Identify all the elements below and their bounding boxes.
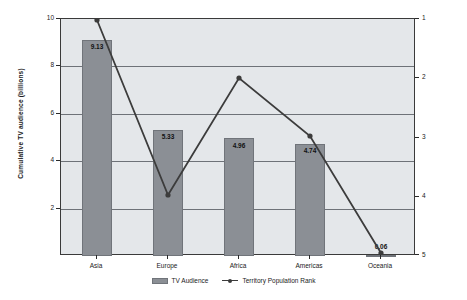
bar-europe <box>153 130 183 256</box>
y-left-tick-4: 4 <box>30 156 54 163</box>
y-left-tickmark-2 <box>56 208 60 209</box>
y-left-tickmark-10 <box>56 18 60 19</box>
y-left-tick-10: 10 <box>30 14 54 21</box>
bar-value-europe: 5.33 <box>148 133 188 140</box>
x-tickmark-americas <box>309 255 310 259</box>
bar-value-americas: 4.74 <box>290 147 330 154</box>
chart-legend: TV Audience Territory Population Rank <box>0 277 467 284</box>
line-point-africa <box>236 75 241 80</box>
bar-africa <box>224 138 254 256</box>
plot-area: 9.13 5.33 4.96 4.74 0.06 <box>60 18 415 255</box>
x-tickmark-oceania <box>380 255 381 259</box>
line-point-oceania <box>378 250 383 254</box>
y-left-tickmark-8 <box>56 65 60 66</box>
y-right-tick-3: 3 <box>422 133 446 140</box>
y-right-tick-4: 4 <box>422 192 446 199</box>
y-left-tick-6: 6 <box>30 109 54 116</box>
y-left-tick-8: 8 <box>30 61 54 68</box>
x-tickmark-africa <box>238 255 239 259</box>
y-right-tickmark-2 <box>415 77 419 78</box>
bar-value-africa: 4.96 <box>219 142 259 149</box>
bar-oceania <box>366 255 396 257</box>
legend-item-tv-audience: TV Audience <box>152 277 209 284</box>
y-right-tickmark-3 <box>415 137 419 138</box>
y-left-tickmark-6 <box>56 113 60 114</box>
bar-asia <box>82 40 112 256</box>
x-label-oceania: Oceania <box>350 262 410 269</box>
bar-value-oceania: 0.06 <box>361 243 401 250</box>
y-right-tickmark-5 <box>415 254 419 255</box>
line-point-americas <box>307 133 312 138</box>
legend-line-marker-icon <box>222 278 238 284</box>
x-tickmark-asia <box>96 255 97 259</box>
y-right-tickmark-4 <box>415 196 419 197</box>
y-left-tickmark-4 <box>56 160 60 161</box>
x-label-europe: Europe <box>137 262 197 269</box>
bar-value-asia: 9.13 <box>77 43 117 50</box>
y-right-tickmark-1 <box>415 18 419 19</box>
bar-americas <box>295 144 325 256</box>
x-label-africa: Africa <box>208 262 268 269</box>
x-label-americas: Americas <box>279 262 339 269</box>
x-label-asia: Asia <box>66 262 126 269</box>
legend-label-territory-population-rank: Territory Population Rank <box>242 277 315 284</box>
x-tickmark-europe <box>167 255 168 259</box>
y-right-tick-5: 5 <box>422 251 446 258</box>
line-point-asia <box>94 19 99 23</box>
gridline-6 <box>61 114 414 115</box>
legend-bar-swatch-icon <box>152 278 168 284</box>
y-right-tick-2: 2 <box>422 73 446 80</box>
y-axis-left-title: Cumulative TV audience (billions) <box>17 44 24 204</box>
y-left-tick-2: 2 <box>30 204 54 211</box>
chart-container: 9.13 5.33 4.96 4.74 0.06 10 8 6 4 2 1 2 … <box>0 0 467 300</box>
legend-item-territory-population-rank: Territory Population Rank <box>222 277 315 284</box>
y-right-tick-1: 1 <box>422 14 446 21</box>
gridline-8 <box>61 66 414 67</box>
legend-label-tv-audience: TV Audience <box>172 277 209 284</box>
